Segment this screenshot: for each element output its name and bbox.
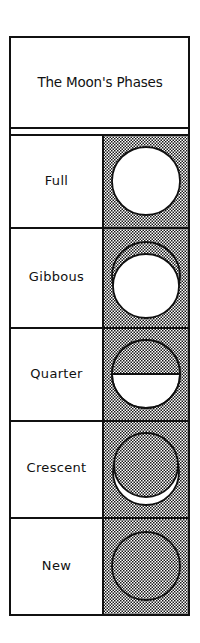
phase-label-full: Full bbox=[10, 173, 103, 188]
new-moon-icon bbox=[112, 532, 180, 600]
full-moon-icon bbox=[112, 147, 180, 215]
moon-phases-diagram: The Moon's Phases Full Gibbous Quarter C… bbox=[0, 0, 200, 643]
phase-label-gibbous: Gibbous bbox=[10, 269, 103, 284]
diagram-canvas bbox=[0, 0, 200, 643]
quarter-moon-icon bbox=[112, 340, 180, 408]
phase-label-crescent: Crescent bbox=[10, 460, 103, 475]
diagram-title: The Moon's Phases bbox=[10, 74, 190, 90]
gibbous-moon-icon bbox=[112, 242, 180, 318]
phase-label-quarter: Quarter bbox=[10, 366, 103, 381]
crescent-moon-icon bbox=[113, 433, 179, 505]
phase-label-new: New bbox=[10, 558, 103, 573]
